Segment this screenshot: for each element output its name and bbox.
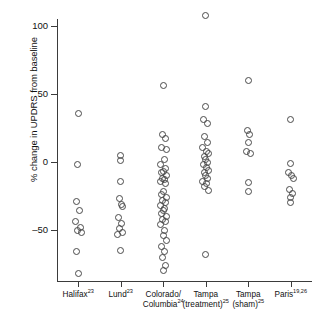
y-tick-mark xyxy=(51,94,57,95)
x-tick-mark xyxy=(78,281,79,287)
data-point xyxy=(114,231,121,238)
x-tick-mark xyxy=(206,281,207,287)
data-point xyxy=(245,188,252,195)
scatter-plot-figure: % change in UPDRS from baseline 100500–5… xyxy=(0,0,321,323)
y-tick-label: 50 xyxy=(4,89,48,99)
data-point xyxy=(202,12,209,19)
data-point xyxy=(287,160,294,167)
data-point xyxy=(246,131,253,138)
x-tick-mark xyxy=(163,281,164,287)
data-point xyxy=(159,254,166,261)
y-tick-label: –50 xyxy=(4,225,48,235)
data-point xyxy=(287,199,294,206)
data-point xyxy=(73,248,80,255)
x-axis-line xyxy=(57,281,312,282)
data-point xyxy=(245,179,252,186)
data-point xyxy=(287,116,294,123)
data-point xyxy=(75,110,82,117)
y-tick-mark xyxy=(51,162,57,163)
y-tick-label: 100 xyxy=(4,21,48,31)
y-axis-title: % change in UPDRS from baseline xyxy=(28,15,39,205)
y-tick-mark xyxy=(51,26,57,27)
y-tick-label: 0 xyxy=(4,157,48,167)
x-tick-label: Paris19,26 xyxy=(248,290,321,300)
data-point xyxy=(73,198,80,205)
y-axis-line xyxy=(57,19,58,282)
data-point xyxy=(205,187,212,194)
data-point xyxy=(162,180,169,187)
data-point xyxy=(202,251,209,258)
x-tick-mark xyxy=(121,281,122,287)
data-point xyxy=(76,207,83,214)
data-point xyxy=(204,120,211,127)
data-point xyxy=(290,175,297,182)
data-point xyxy=(160,82,167,89)
data-point xyxy=(119,203,126,210)
data-point xyxy=(160,267,167,274)
data-point xyxy=(75,270,82,277)
data-point xyxy=(245,139,252,146)
data-point xyxy=(74,161,81,168)
data-point xyxy=(163,146,170,153)
data-point xyxy=(162,135,169,142)
data-point xyxy=(202,103,209,110)
data-point xyxy=(117,178,124,185)
x-tick-mark xyxy=(248,281,249,287)
data-point xyxy=(117,157,124,164)
data-point xyxy=(245,77,252,84)
x-tick-mark xyxy=(291,281,292,287)
data-point xyxy=(247,150,254,157)
y-tick-mark xyxy=(51,230,57,231)
data-point xyxy=(117,247,124,254)
data-point xyxy=(78,229,85,236)
